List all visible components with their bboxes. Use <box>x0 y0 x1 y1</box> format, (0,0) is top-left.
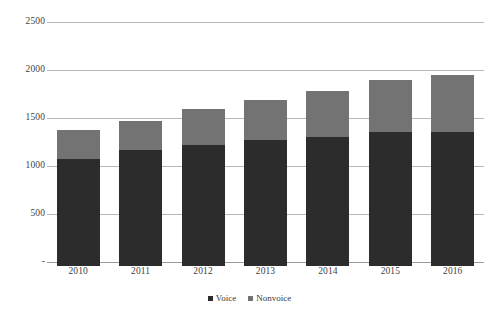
bar-stack <box>119 121 162 266</box>
y-tick-label-2000: 2000 <box>3 65 45 75</box>
y-tick-label-1500: 1500 <box>3 113 45 123</box>
legend-swatch-icon-voice <box>208 296 213 301</box>
bar-segment-voice-2013[interactable] <box>244 140 287 266</box>
y-tick-label-1000: 1000 <box>3 161 45 171</box>
legend-item-nonvoice[interactable]: Nonvoice <box>248 294 291 303</box>
bars-layer <box>47 18 484 266</box>
y-tick-label-500: 500 <box>3 209 45 219</box>
bar-group-2016[interactable] <box>431 22 474 266</box>
bar-stack <box>431 75 474 266</box>
x-tick-label-2012: 2012 <box>172 265 234 278</box>
x-tick-label-2013: 2013 <box>234 265 296 278</box>
bar-segment-nonvoice-2012[interactable] <box>182 109 225 145</box>
legend-label-nonvoice: Nonvoice <box>256 294 291 303</box>
legend-swatch-icon-nonvoice <box>248 296 253 301</box>
bar-segment-voice-2015[interactable] <box>369 132 412 266</box>
bar-group-2012[interactable] <box>182 22 225 266</box>
bar-stack <box>369 80 412 266</box>
bar-segment-nonvoice-2010[interactable] <box>57 130 100 159</box>
bar-segment-nonvoice-2013[interactable] <box>244 100 287 140</box>
x-axis-tick-labels: 2010201120122013201420152016 <box>47 265 484 281</box>
bar-segment-nonvoice-2016[interactable] <box>431 75 474 132</box>
bar-segment-nonvoice-2014[interactable] <box>306 91 349 137</box>
legend-label-voice: Voice <box>216 294 236 303</box>
x-tick-label-2014: 2014 <box>297 265 359 278</box>
x-tick-label-2011: 2011 <box>109 265 171 278</box>
y-tick-label-2500: 2500 <box>3 17 45 27</box>
bar-segment-voice-2011[interactable] <box>119 150 162 266</box>
bar-segment-voice-2014[interactable] <box>306 137 349 266</box>
bar-segment-voice-2016[interactable] <box>431 132 474 266</box>
y-axis-tick-labels: -5001000150020002500 <box>0 18 45 268</box>
x-tick-label-2015: 2015 <box>359 265 421 278</box>
x-tick-label-2016: 2016 <box>422 265 484 278</box>
y-tick-label-0: - <box>3 257 45 267</box>
bar-stack <box>182 109 225 266</box>
bar-stack <box>244 100 287 266</box>
legend-item-voice[interactable]: Voice <box>208 294 236 303</box>
bar-group-2014[interactable] <box>306 22 349 266</box>
bar-segment-nonvoice-2011[interactable] <box>119 121 162 150</box>
bar-stack <box>306 91 349 266</box>
bar-group-2015[interactable] <box>369 22 412 266</box>
bar-segment-voice-2012[interactable] <box>182 145 225 266</box>
x-tick-label-2010: 2010 <box>47 265 109 278</box>
bar-segment-voice-2010[interactable] <box>57 159 100 266</box>
stacked-bar-chart: -5001000150020002500 2010201120122013201… <box>0 0 499 321</box>
bar-group-2010[interactable] <box>57 22 100 266</box>
bar-stack <box>57 130 100 266</box>
bar-group-2011[interactable] <box>119 22 162 266</box>
chart-legend: VoiceNonvoice <box>0 294 499 303</box>
bar-segment-nonvoice-2015[interactable] <box>369 80 412 132</box>
bar-group-2013[interactable] <box>244 22 287 266</box>
